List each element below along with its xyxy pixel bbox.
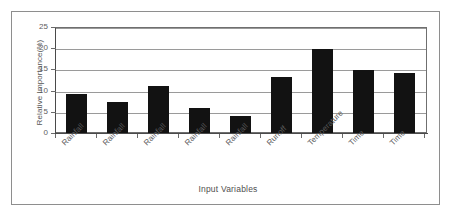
y-tick-20: [51, 48, 56, 49]
x-tick-8: [383, 134, 384, 138]
y-axis-line: [55, 27, 56, 134]
x-tick-1: [96, 134, 97, 138]
y-tick-25: [51, 27, 56, 28]
y-tick-15: [51, 69, 56, 70]
y-axis-title-wrap: Relative Importance(%): [22, 20, 36, 140]
x-axis-title: Input Variables: [0, 184, 456, 194]
x-tick-7: [342, 134, 343, 138]
bar-8: [394, 73, 415, 133]
x-tick-3: [178, 134, 179, 138]
bars-layer: [55, 27, 427, 133]
bar-7: [353, 70, 374, 133]
y-tick-10: [51, 91, 56, 92]
y-tick-5: [51, 112, 56, 113]
x-tick-5: [260, 134, 261, 138]
x-tick-0: [55, 134, 56, 138]
x-tick-4: [219, 134, 220, 138]
bar-chart: 25 20 15 10 5 0 Relative Importance(%) R…: [0, 0, 456, 221]
y-axis-title: Relative Importance(%): [35, 28, 44, 138]
x-tick-9: [424, 134, 425, 138]
x-tick-6: [301, 134, 302, 138]
x-tick-2: [137, 134, 138, 138]
